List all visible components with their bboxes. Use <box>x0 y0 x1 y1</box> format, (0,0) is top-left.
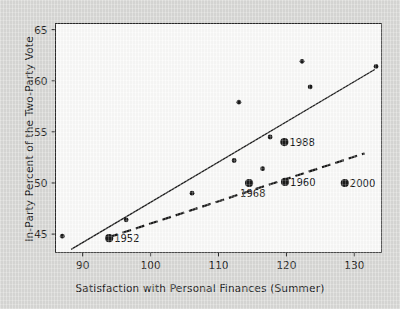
x-tick-label-130: 130 <box>344 259 364 271</box>
data-point-2000 <box>341 179 349 187</box>
scatter-plot <box>0 0 400 309</box>
x-tick-label-90: 90 <box>76 259 89 271</box>
x-tick-label-110: 110 <box>208 259 228 271</box>
point-label-1968: 1968 <box>240 187 265 198</box>
data-point-11 <box>300 59 305 64</box>
y-axis-ticks <box>52 30 56 234</box>
data-point-1968 <box>245 179 253 187</box>
plot-area <box>56 24 382 253</box>
point-label-1988: 1988 <box>289 137 314 148</box>
chart-figure: Satisfaction with Personal Finances (Sum… <box>0 0 400 309</box>
data-point-5 <box>236 100 241 105</box>
y-tick-label-45: 45 <box>22 228 48 240</box>
data-point-12 <box>308 84 313 89</box>
x-tick-label-100: 100 <box>141 259 161 271</box>
y-axis-title: In-Party Percent of the Two-Party Vote <box>23 19 35 259</box>
point-label-2000: 2000 <box>350 177 375 188</box>
y-tick-label-60: 60 <box>22 75 48 87</box>
y-tick-label-65: 65 <box>22 24 48 36</box>
data-point-8 <box>268 135 273 140</box>
data-point-7 <box>260 166 265 171</box>
data-point-3 <box>190 191 195 196</box>
x-tick-label-120: 120 <box>276 259 296 271</box>
data-point-1960 <box>281 178 289 186</box>
data-point-1988 <box>280 138 288 146</box>
point-label-1952: 1952 <box>114 233 139 244</box>
data-point-1952 <box>105 234 113 242</box>
y-tick-label-55: 55 <box>22 126 48 138</box>
data-point-14 <box>374 64 379 69</box>
point-label-1960: 1960 <box>290 176 315 187</box>
data-point-4 <box>232 158 237 163</box>
x-axis-ticks <box>83 253 355 257</box>
x-axis-title: Satisfaction with Personal Finances (Sum… <box>0 282 400 294</box>
y-tick-label-50: 50 <box>22 177 48 189</box>
data-point-2 <box>124 217 129 222</box>
data-point-0 <box>60 234 65 239</box>
